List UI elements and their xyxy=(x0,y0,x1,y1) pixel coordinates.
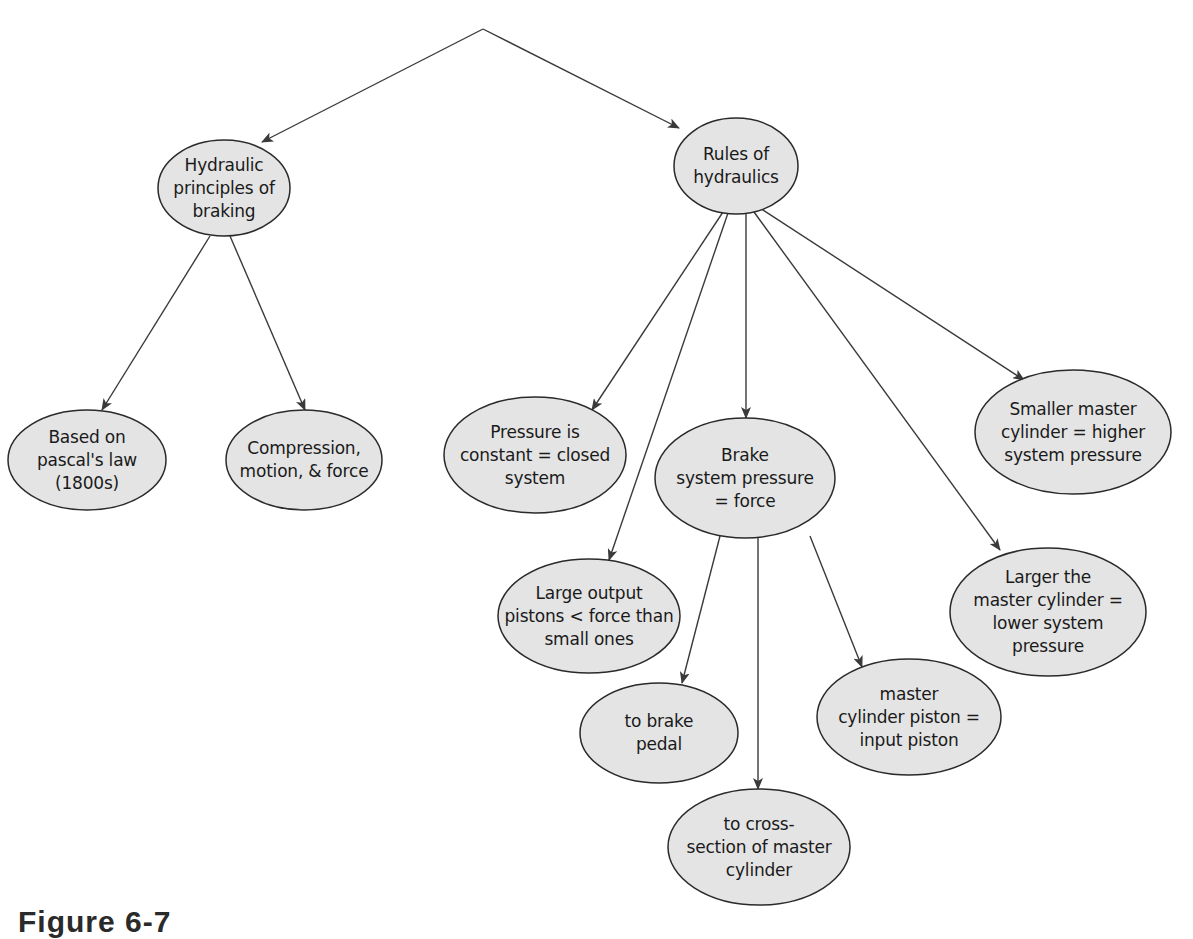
arrow-rules-of-hydraulics-to-pressure-constant xyxy=(592,212,723,410)
node-label-master-cylinder-piston: master cylinder piston = input piston xyxy=(817,659,1001,775)
node-label-brake-system-pressure: Brake system pressure = force xyxy=(655,418,835,538)
arrow-brake-system-pressure-to-to-brake-pedal xyxy=(682,536,720,683)
node-label-compression-motion-force: Compression, motion, & force xyxy=(226,410,382,510)
arrow-root-to-hydraulic-principles xyxy=(262,29,483,142)
figure-caption: Figure 6-7 xyxy=(18,905,171,939)
node-label-large-output-pistons: Large output pistons < force than small … xyxy=(498,559,680,673)
node-label-to-brake-pedal: to brake pedal xyxy=(580,683,738,783)
node-label-pascals-law: Based on pascal's law (1800s) xyxy=(8,410,166,510)
arrow-hydraulic-principles-to-compression-motion-force xyxy=(230,236,305,410)
node-label-larger-master-cylinder: Larger the master cylinder = lower syste… xyxy=(950,548,1146,676)
node-label-hydraulic-principles: Hydraulic principles of braking xyxy=(158,140,290,236)
arrow-brake-system-pressure-to-master-cylinder-piston xyxy=(810,536,862,667)
node-label-rules-of-hydraulics: Rules of hydraulics xyxy=(674,118,798,214)
arrow-rules-of-hydraulics-to-smaller-master-cylinder xyxy=(760,208,1024,380)
node-label-pressure-constant: Pressure is constant = closed system xyxy=(444,397,626,513)
node-label-smaller-master-cylinder: Smaller master cylinder = higher system … xyxy=(975,370,1171,494)
arrow-hydraulic-principles-to-pascals-law xyxy=(102,236,210,410)
arrow-root-to-rules-of-hydraulics xyxy=(483,29,679,128)
node-label-cross-section: to cross- section of master cylinder xyxy=(668,789,850,905)
